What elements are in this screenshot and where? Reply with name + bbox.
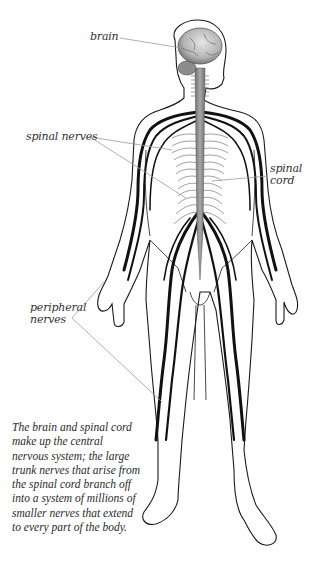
spinal-cord-leader-line bbox=[212, 176, 268, 181]
peripheral-nerves-label-line2: nerves bbox=[30, 314, 86, 326]
brain-leader-line bbox=[120, 38, 182, 48]
spinal-cord-label: spinal cord bbox=[270, 163, 302, 187]
spinal-nerves-label: spinal nerves bbox=[26, 131, 97, 143]
spinal-nerves-leader-line-1 bbox=[90, 137, 172, 150]
brain-label: brain bbox=[90, 31, 118, 43]
spinal-cord-label-line2: cord bbox=[270, 175, 302, 187]
spinal-cord bbox=[195, 68, 205, 280]
leader-lines bbox=[72, 38, 268, 402]
nervous-system-diagram: brain spinal nerves spinal cord peripher… bbox=[0, 0, 316, 571]
caption-text: The brain and spinal cord make up the ce… bbox=[12, 420, 142, 534]
peripheral-nerves-label: peripheral nerves bbox=[30, 302, 86, 326]
